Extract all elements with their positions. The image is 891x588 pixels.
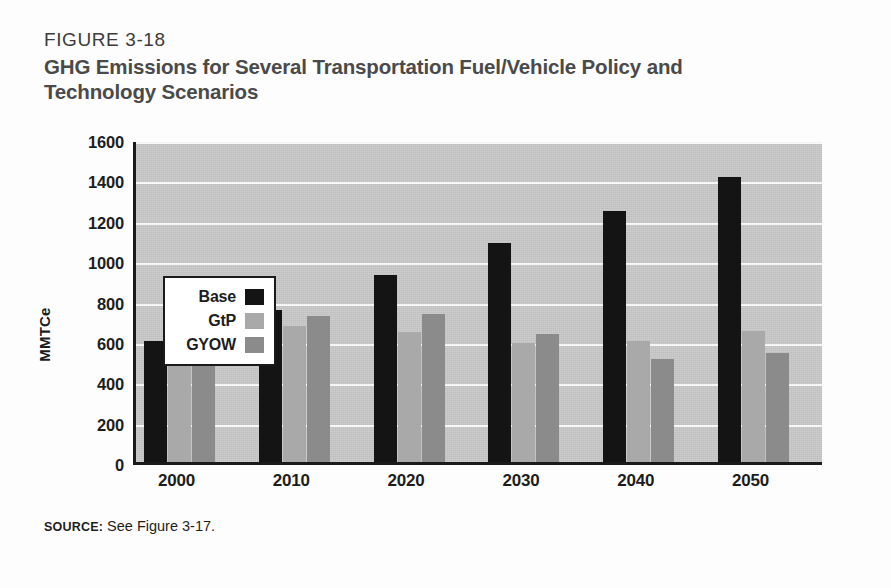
bar-gtp-2020[interactable] (398, 332, 421, 462)
bar-base-2030[interactable] (488, 243, 511, 462)
figure-number: FIGURE 3-18 (44, 30, 744, 51)
y-axis-tick: 1200 (40, 213, 124, 232)
figure-page: FIGURE 3-18 GHG Emissions for Several Tr… (0, 0, 891, 588)
y-axis-tick: 800 (40, 294, 124, 313)
bar-group-2020 (374, 142, 445, 462)
legend-item-gyow[interactable]: GYOW (174, 333, 264, 357)
legend-swatch-icon (245, 289, 264, 305)
x-axis-tick-labels: 200020102020203020402050 (133, 471, 822, 501)
legend-swatch-icon (245, 313, 264, 329)
source-label: SOURCE: (44, 520, 103, 534)
bar-base-2050[interactable] (718, 177, 741, 462)
bar-gtp-2040[interactable] (627, 341, 650, 462)
bar-gyow-2020[interactable] (422, 314, 445, 462)
figure-header: FIGURE 3-18 GHG Emissions for Several Tr… (44, 30, 744, 104)
y-axis-tick-labels: 02004006008001000120014001600 (40, 142, 124, 465)
bar-group-2040 (603, 142, 674, 462)
x-axis-tick: 2010 (273, 471, 310, 491)
y-axis-tick: 1400 (40, 173, 124, 192)
bar-base-2020[interactable] (374, 275, 397, 462)
bar-base-2040[interactable] (603, 211, 626, 462)
source-text: See Figure 3-17. (103, 518, 215, 534)
y-axis-tick: 1000 (40, 254, 124, 273)
y-axis-tick: 200 (40, 415, 124, 434)
source-note: SOURCE: See Figure 3-17. (44, 518, 215, 534)
bar-gyow-2030[interactable] (536, 334, 559, 462)
bar-gyow-2010[interactable] (307, 316, 330, 462)
x-axis-tick: 2030 (502, 471, 539, 491)
bar-chart: MMTCe 02004006008001000120014001600 2000… (0, 118, 891, 498)
bar-group-2030 (488, 142, 559, 462)
legend-swatch-icon (245, 337, 264, 353)
bar-gyow-2040[interactable] (651, 359, 674, 462)
y-axis-tick: 1600 (40, 133, 124, 152)
legend-label: GYOW (174, 336, 236, 354)
figure-title: GHG Emissions for Several Transportation… (44, 54, 684, 104)
bar-gyow-2050[interactable] (766, 353, 789, 462)
legend-item-gtp[interactable]: GtP (174, 309, 264, 333)
bar-gtp-2050[interactable] (742, 331, 765, 462)
legend-item-base[interactable]: Base (174, 285, 264, 309)
y-axis-tick: 400 (40, 375, 124, 394)
bar-gtp-2010[interactable] (283, 326, 306, 462)
x-axis-tick: 2020 (388, 471, 425, 491)
x-axis-tick: 2040 (617, 471, 654, 491)
bar-group-2050 (718, 142, 789, 462)
bar-gtp-2030[interactable] (512, 343, 535, 462)
y-axis-tick: 0 (40, 456, 124, 475)
x-axis-tick: 2000 (158, 471, 195, 491)
chart-legend: BaseGtPGYOW (163, 276, 276, 366)
x-axis-tick: 2050 (732, 471, 769, 491)
legend-label: Base (174, 288, 236, 306)
y-axis-tick: 600 (40, 334, 124, 353)
legend-label: GtP (174, 312, 236, 330)
